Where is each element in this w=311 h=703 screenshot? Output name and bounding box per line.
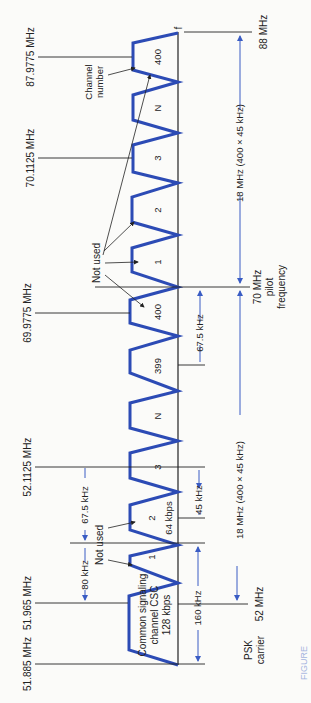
channel-number-line1: Channel [83, 64, 94, 99]
ch-2-rate: 64 kbps [163, 501, 174, 535]
not-used-pilot: Not used [91, 243, 102, 283]
csc-line1: Common signaling [137, 574, 148, 657]
ch-400-upper: 400 [152, 49, 163, 65]
frequency-plan-diagram: 87.9775 MHz 70.1125 MHz 69.9775 MHz 52.1… [0, 0, 311, 703]
ch-2-lower: 2 [146, 515, 157, 520]
edge-88mhz: 88 MHz [258, 15, 269, 49]
channel-number-line2: number [94, 66, 105, 98]
psk-label-line2: carrier [255, 635, 266, 664]
span-upper-18mhz: 18 MHz (400 × 45 kHz) [234, 104, 245, 202]
ch-3-lower: 3 [152, 464, 163, 469]
span-80khz: 80 kHz [79, 560, 90, 590]
freq-label-52-1125: 52.1125 MHz [22, 438, 33, 497]
pilot-label-line2: pilot [264, 278, 275, 297]
ch-2-upper: 2 [152, 207, 163, 212]
csc-number: 1 [146, 554, 157, 559]
edge-52mhz: 52 MHz [254, 587, 265, 621]
freq-label-69-9775: 69.9775 MHz [22, 283, 33, 342]
axis-f-label: f [173, 26, 184, 29]
ch-400-lower: 400 [152, 304, 163, 320]
span-45khz: 45 kHz [193, 485, 204, 515]
csc-line3: 128 kbps [161, 595, 172, 636]
not-used-low: Not used [94, 525, 105, 565]
ch-1-upper: 1 [152, 259, 163, 264]
ch-399: 399 [152, 358, 163, 374]
freq-label-51-885: 51.885 MHz [22, 637, 33, 691]
span-160khz: 160 kHz [192, 590, 203, 625]
pilot-label-line1: 70 MHz [252, 270, 263, 304]
csc-line2: channel CSC [149, 586, 160, 645]
ch-3-upper: 3 [152, 155, 163, 160]
ch-N-upper: N [152, 104, 163, 111]
psk-label-line1: PSK [243, 640, 254, 660]
ch-N-lower: N [152, 412, 163, 419]
span-67-5-low: 67.5 kHz [79, 486, 90, 524]
freq-label-87-9775: 87.9775 MHz [25, 27, 36, 86]
span-lower-18mhz: 18 MHz (400 × 45 kHz) [234, 441, 245, 539]
span-67-5-pilot: 67.5 kHz [194, 314, 205, 352]
figure-caption: FIGURE [299, 646, 309, 680]
pilot-label-line3: frequency [276, 265, 287, 309]
freq-label-51-965: 51.965 MHz [22, 576, 33, 630]
freq-label-70-1125: 70.1125 MHz [25, 129, 36, 188]
